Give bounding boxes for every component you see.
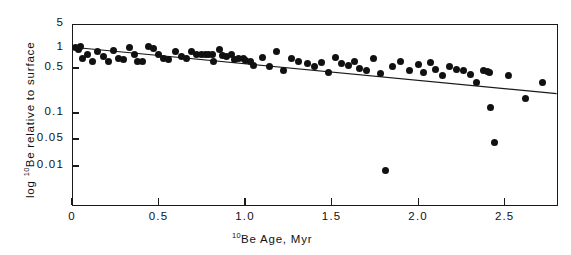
y-axis-title: log 10Be relative to surface (22, 42, 36, 198)
scatter-point (356, 65, 363, 72)
scatter-point (351, 58, 358, 65)
scatter-point (105, 58, 112, 65)
scatter-point (183, 55, 190, 62)
x-axis-title-text: Be Age, Myr (241, 233, 312, 245)
y-axis-title-superscript: 10 (22, 167, 31, 176)
scatter-point (453, 66, 460, 73)
scatter-point (370, 55, 377, 62)
scatter-point (427, 59, 434, 66)
y-axis-title-text: Be relative to surface (24, 42, 36, 168)
scatter-point (406, 67, 413, 74)
scatter-point (415, 61, 422, 68)
x-axis-title: 10Be Age, Myr (232, 231, 312, 245)
scatter-point (505, 72, 512, 79)
scatter-point (432, 66, 439, 73)
scatter-point (460, 67, 467, 74)
scatter-point (377, 70, 384, 77)
scatter-point (250, 62, 257, 69)
scatter-point (491, 139, 498, 146)
scatter-point (304, 60, 311, 67)
chart-figure: 510.50.10.050.01 00.51.01.52.02.5 10Be A… (0, 0, 571, 255)
scatter-point (397, 58, 404, 65)
scatter-point (486, 69, 493, 76)
regression-line (0, 0, 571, 255)
scatter-point (259, 54, 266, 61)
scatter-point (273, 48, 280, 55)
scatter-point (318, 59, 325, 66)
scatter-point (439, 72, 446, 79)
scatter-point (420, 69, 427, 76)
scatter-point (332, 54, 339, 61)
scatter-point (126, 44, 133, 51)
scatter-point (389, 63, 396, 70)
scatter-point (131, 51, 138, 58)
scatter-point (363, 67, 370, 74)
scatter-point (522, 95, 529, 102)
scatter-point (325, 69, 332, 76)
scatter-point (89, 58, 96, 65)
scatter-point (539, 79, 546, 86)
scatter-point (84, 51, 91, 58)
x-axis-title-superscript: 10 (232, 231, 241, 240)
y-axis-title-prefix: log (24, 176, 36, 198)
